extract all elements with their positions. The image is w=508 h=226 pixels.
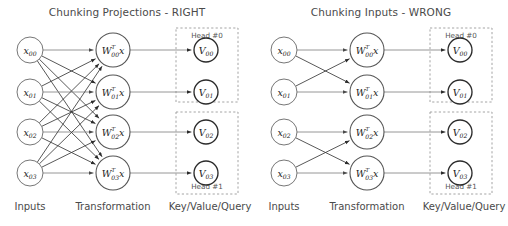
label-subscript: 02 — [111, 132, 119, 139]
label-subscript: 01 — [29, 92, 37, 99]
label-superscript: T — [365, 44, 369, 50]
transform-node-W01[interactable]: WT01x — [96, 75, 130, 109]
label-subscript: 02 — [283, 132, 291, 139]
label-subscript: 01 — [111, 92, 119, 99]
panel-title: Chunking Projections - RIGHT — [49, 6, 206, 18]
output-node-V02[interactable]: V02 — [194, 120, 218, 144]
transform-node-W00[interactable]: WT00x — [96, 33, 130, 67]
label-suffix: x — [373, 127, 379, 138]
output-node-V00[interactable]: V00 — [448, 38, 472, 62]
node-label: WT00x — [356, 44, 379, 57]
transform-node-W02[interactable]: WT02x — [96, 115, 130, 149]
label-subscript: 02 — [460, 132, 468, 139]
label-superscript: T — [365, 126, 369, 132]
label-subscript: 00 — [365, 50, 373, 57]
label-subscript: 03 — [29, 173, 37, 180]
label-subscript: 02 — [365, 132, 373, 139]
label-superscript: T — [111, 86, 115, 92]
column-label-inputs: Inputs — [268, 201, 299, 212]
output-node-V03[interactable]: V03 — [194, 161, 218, 185]
input-node-x01[interactable]: x01 — [271, 79, 297, 105]
label-suffix: x — [119, 168, 125, 179]
label-subscript: 03 — [460, 173, 468, 180]
label-subscript: 01 — [460, 92, 468, 99]
input-node-x00[interactable]: x00 — [17, 37, 43, 63]
label-subscript: 00 — [283, 50, 291, 57]
label-subscript: 00 — [111, 50, 119, 57]
transform-node-W03[interactable]: WT03x — [96, 156, 130, 190]
label-superscript: T — [111, 167, 115, 173]
label-subscript: 00 — [206, 50, 214, 57]
input-node-x03[interactable]: x03 — [17, 160, 43, 186]
label-subscript: 03 — [365, 173, 373, 180]
label-superscript: T — [365, 86, 369, 92]
node-label: WT03x — [102, 167, 125, 180]
input-node-x00[interactable]: x00 — [271, 37, 297, 63]
label-subscript: 01 — [206, 92, 214, 99]
label-superscript: T — [111, 126, 115, 132]
output-node-V02[interactable]: V02 — [448, 120, 472, 144]
node-label: WT02x — [356, 126, 379, 139]
input-node-x02[interactable]: x02 — [271, 119, 297, 145]
label-subscript: 03 — [283, 173, 291, 180]
column-label-transformation: Transformation — [74, 201, 150, 212]
input-node-x03[interactable]: x03 — [271, 160, 297, 186]
label-subscript: 00 — [460, 50, 468, 57]
column-label-inputs: Inputs — [14, 201, 45, 212]
transform-node-W03[interactable]: WT03x — [350, 156, 384, 190]
label-suffix: x — [119, 87, 125, 98]
output-node-V00[interactable]: V00 — [194, 38, 218, 62]
output-node-V01[interactable]: V01 — [194, 80, 218, 104]
label-suffix: x — [373, 87, 379, 98]
label-suffix: x — [373, 168, 379, 179]
input-node-x01[interactable]: x01 — [17, 79, 43, 105]
label-suffix: x — [119, 45, 125, 56]
label-subscript: 03 — [206, 173, 214, 180]
column-label-keyvaluequery: Key/Value/Query — [169, 201, 252, 212]
column-label-transformation: Transformation — [328, 201, 404, 212]
background — [0, 0, 508, 226]
transform-node-W02[interactable]: WT02x — [350, 115, 384, 149]
node-label: WT00x — [102, 44, 125, 57]
node-label: WT02x — [102, 126, 125, 139]
input-node-x02[interactable]: x02 — [17, 119, 43, 145]
transform-node-W00[interactable]: WT00x — [350, 33, 384, 67]
output-node-V03[interactable]: V03 — [448, 161, 472, 185]
label-subscript: 02 — [29, 132, 37, 139]
panel-title: Chunking Inputs - WRONG — [311, 6, 451, 18]
transform-node-W01[interactable]: WT01x — [350, 75, 384, 109]
label-subscript: 03 — [111, 173, 119, 180]
diagram-svg: Chunking Projections - RIGHTHead #0Head … — [0, 0, 508, 226]
column-label-keyvaluequery: Key/Value/Query — [423, 201, 506, 212]
label-suffix: x — [119, 127, 125, 138]
label-superscript: T — [365, 167, 369, 173]
label-suffix: x — [373, 45, 379, 56]
label-subscript: 01 — [365, 92, 373, 99]
label-subscript: 02 — [206, 132, 214, 139]
label-subscript: 00 — [29, 50, 37, 57]
node-label: WT01x — [356, 86, 379, 99]
label-subscript: 01 — [283, 92, 291, 99]
output-node-V01[interactable]: V01 — [448, 80, 472, 104]
node-label: WT03x — [356, 167, 379, 180]
node-label: WT01x — [102, 86, 125, 99]
figure-canvas: Chunking Projections - RIGHTHead #0Head … — [0, 0, 508, 226]
label-superscript: T — [111, 44, 115, 50]
